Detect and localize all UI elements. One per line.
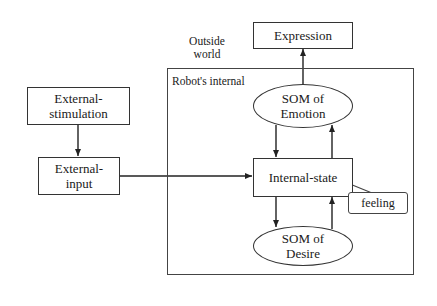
external-input-line-2: input (55, 176, 103, 191)
diagram-canvas: Robot's internal Outside world Expressio… (0, 0, 437, 306)
external-stimulation-line-2: stimulation (49, 106, 108, 121)
external-stimulation-node: External- stimulation (27, 87, 130, 125)
feeling-label: feeling (361, 196, 394, 211)
som-emotion-node: SOM of Emotion (253, 84, 353, 128)
som-desire-line-1: SOM of (282, 231, 324, 246)
external-stimulation-line-1: External- (49, 91, 108, 106)
outside-world-line-1: Outside (184, 35, 230, 48)
som-emotion-line-2: Emotion (281, 106, 326, 121)
som-emotion-line-1: SOM of (281, 91, 326, 106)
internal-state-label: Internal-state (269, 170, 338, 185)
internal-state-node: Internal-state (253, 158, 353, 197)
expression-label: Expression (274, 28, 332, 43)
outside-world-label: Outside world (184, 35, 230, 61)
som-desire-line-2: Desire (282, 246, 324, 261)
feeling-callout: feeling (348, 192, 408, 214)
external-input-node: External- input (38, 157, 120, 195)
external-input-line-1: External- (55, 161, 103, 176)
robot-internal-label: Robot's internal (172, 75, 245, 87)
outside-world-line-2: world (184, 48, 230, 61)
expression-node: Expression (253, 22, 353, 49)
som-desire-node: SOM of Desire (253, 226, 353, 266)
